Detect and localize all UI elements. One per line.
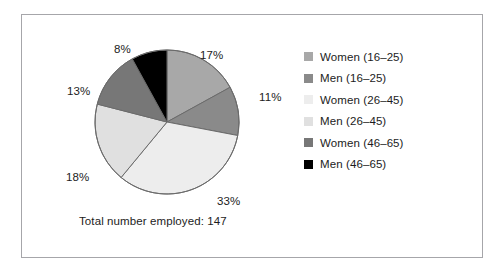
legend-swatch-icon (304, 95, 313, 104)
legend-label: Men (26–45) (320, 115, 386, 127)
legend-label: Women (46–65) (320, 137, 404, 149)
legend-item-women-46-65[interactable]: Women (46–65) (304, 132, 474, 154)
legend-swatch-icon (304, 74, 313, 83)
pie-label-33: 33% (217, 195, 240, 207)
legend-item-women-26-45[interactable]: Women (26–45) (304, 89, 474, 111)
legend-item-men-16-25[interactable]: Men (16–25) (304, 68, 474, 90)
legend-swatch-icon (304, 52, 313, 61)
legend-swatch-icon (304, 138, 313, 147)
pie-label-18: 18% (66, 171, 89, 183)
pie-label-13: 13% (67, 85, 90, 97)
legend-label: Men (16–25) (320, 72, 386, 84)
legend-item-men-46-65[interactable]: Men (46–65) (304, 154, 474, 176)
pie-label-8: 8% (114, 43, 131, 55)
legend-swatch-icon (304, 160, 313, 169)
pie-label-11: 11% (259, 91, 281, 103)
legend-label: Women (26–45) (320, 94, 404, 106)
pie-chart-area: 17% 11% 33% 18% 13% 8% Women (16–25) Men… (22, 15, 484, 259)
pie-chart-svg (88, 43, 248, 203)
pie-label-17: 17% (200, 49, 223, 61)
legend: Women (16–25) Men (16–25) Women (26–45) … (304, 46, 474, 175)
figure-frame: 17% 11% 33% 18% 13% 8% Women (16–25) Men… (21, 14, 483, 258)
total-employed-caption: Total number employed: 147 (79, 215, 227, 227)
legend-item-women-16-25[interactable]: Women (16–25) (304, 46, 474, 68)
legend-label: Women (16–25) (320, 51, 404, 63)
legend-label: Men (46–65) (320, 158, 386, 170)
legend-swatch-icon (304, 117, 313, 126)
legend-item-men-26-45[interactable]: Men (26–45) (304, 111, 474, 133)
